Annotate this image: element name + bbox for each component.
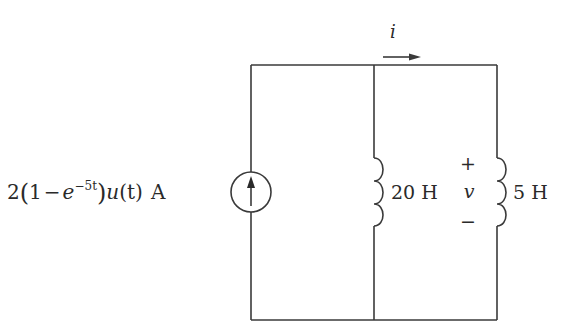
- circuit-diagram: i 2(1−e−5t)u(t)A 20 H 5 H + v −: [0, 0, 577, 334]
- wires: [251, 65, 497, 320]
- voltage-minus: −: [460, 210, 476, 232]
- current-source: [231, 172, 271, 212]
- voltage-plus: +: [460, 152, 476, 174]
- current-indicator: i: [383, 21, 421, 61]
- inductor-20h-label: 20 H: [391, 181, 438, 203]
- inductor-20h-coil: [374, 158, 383, 226]
- source-label: 2(1−e−5t)u(t)A: [7, 179, 166, 207]
- arrow-up-head-icon: [247, 176, 255, 188]
- current-arrow-icon: [409, 54, 421, 61]
- current-label: i: [390, 21, 396, 42]
- voltage-label: v: [464, 180, 475, 202]
- inductor-5h-label: 5 H: [513, 181, 548, 203]
- inductor-5h-coil: [497, 158, 506, 226]
